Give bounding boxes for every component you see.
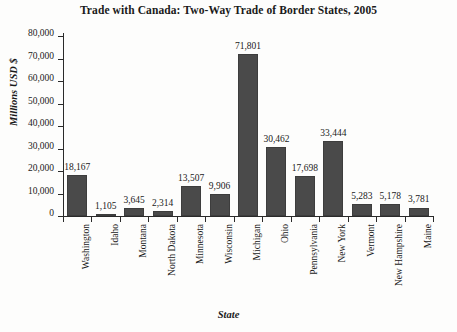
x-axis-category-label: Maine <box>423 224 433 248</box>
x-axis-category-label: Vermont <box>366 224 376 257</box>
plot-area <box>63 36 433 216</box>
x-axis-category-label: Minnesota <box>195 224 205 264</box>
bar[interactable] <box>323 141 343 216</box>
x-axis-category-label: Wisconsin <box>224 224 234 264</box>
y-axis-tick: 60,000 <box>0 81 63 82</box>
x-axis-tick-mark <box>348 217 349 222</box>
bar[interactable] <box>210 194 230 216</box>
x-axis-tick-mark <box>319 217 320 222</box>
y-axis-tick-label: 10,000 <box>28 186 54 196</box>
x-axis-tick-mark <box>63 217 64 222</box>
bar[interactable] <box>295 176 315 216</box>
x-axis-tick-mark <box>177 217 178 222</box>
y-axis-tick-label: 50,000 <box>28 96 54 106</box>
bar[interactable] <box>380 204 400 216</box>
x-axis-tick-mark <box>148 217 149 222</box>
x-axis-line <box>63 216 434 217</box>
bar[interactable] <box>409 208 429 217</box>
x-axis-category-label: New York <box>337 224 347 263</box>
x-axis-tick-mark <box>205 217 206 222</box>
y-axis-title: Millions USD $ <box>8 58 19 126</box>
x-axis-category-label: New Hampshire <box>394 224 404 286</box>
y-axis-tick-label: 80,000 <box>28 28 54 38</box>
x-axis-tick-mark <box>91 217 92 222</box>
x-axis-tick-mark <box>433 217 434 222</box>
bar-value-label: 9,906 <box>192 181 248 191</box>
bar-value-label: 3,781 <box>391 194 447 204</box>
x-axis-category-label: Pennsylvania <box>309 224 319 275</box>
x-axis-category-label: Michigan <box>252 224 262 260</box>
x-axis-tick-mark <box>291 217 292 222</box>
x-axis-category-label: Ohio <box>280 224 290 243</box>
y-axis-tick: 0 <box>0 216 63 217</box>
bar-value-label: 71,801 <box>220 41 276 51</box>
x-axis-tick-mark <box>376 217 377 222</box>
bar[interactable] <box>153 211 173 216</box>
bar-value-label: 33,444 <box>305 128 361 138</box>
y-axis-tick: 10,000 <box>0 194 63 195</box>
x-axis-category-label: Washington <box>81 224 91 269</box>
x-axis-tick-mark <box>234 217 235 222</box>
x-axis-category-label: Montana <box>138 224 148 258</box>
y-axis-tick: 80,000 <box>0 36 63 37</box>
bar-value-label: 2,314 <box>135 198 191 208</box>
chart-container: Trade with Canada: Two-Way Trade of Bord… <box>0 0 457 332</box>
x-axis-category-label: Idaho <box>110 224 120 246</box>
y-axis-tick: 40,000 <box>0 126 63 127</box>
bar-value-label: 17,698 <box>277 163 333 173</box>
x-axis-tick-mark <box>120 217 121 222</box>
y-axis-tick-label: 70,000 <box>28 51 54 61</box>
x-axis-tick-mark <box>405 217 406 222</box>
x-axis-category-label: North Dakota <box>167 224 177 276</box>
y-axis-tick-label: 60,000 <box>28 73 54 83</box>
y-axis-tick: 50,000 <box>0 104 63 105</box>
bar[interactable] <box>352 204 372 216</box>
bar-value-label: 18,167 <box>49 162 105 172</box>
bar[interactable] <box>96 214 116 216</box>
x-axis-tick-mark <box>262 217 263 222</box>
bar-value-label: 30,462 <box>248 134 304 144</box>
chart-title: Trade with Canada: Two-Way Trade of Bord… <box>0 4 457 16</box>
y-axis-tick: 70,000 <box>0 59 63 60</box>
y-axis-tick-label: 40,000 <box>28 118 54 128</box>
y-axis-tick-label: 0 <box>49 208 54 218</box>
bar[interactable] <box>266 147 286 216</box>
y-axis-tick-label: 30,000 <box>28 141 54 151</box>
x-axis-title: State <box>0 309 457 320</box>
y-axis-tick: 30,000 <box>0 149 63 150</box>
